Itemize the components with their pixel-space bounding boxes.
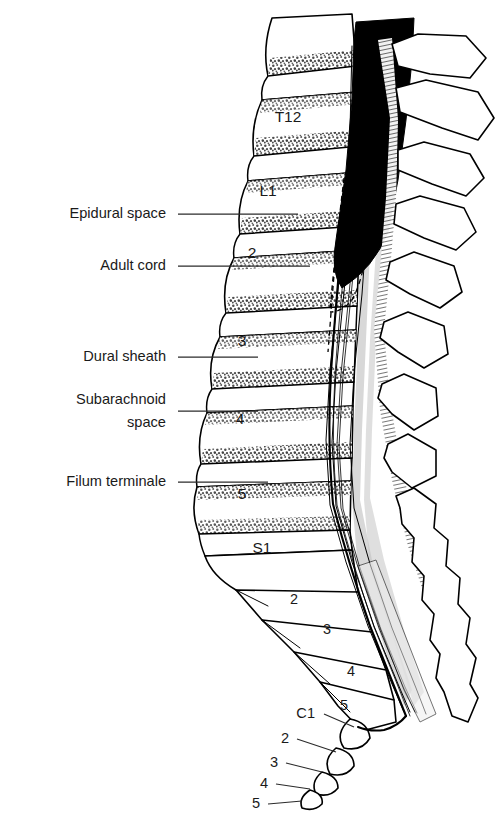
vertebra-label-S1: S1	[253, 539, 272, 556]
coccyx-label-C4: 4	[260, 775, 268, 791]
leader-coccyx-C3	[286, 763, 322, 772]
label-filum-terminale: Filum terminale	[66, 473, 166, 489]
vertebra-body-L5	[194, 481, 351, 534]
callout-labels-group: Epidural space Adult cord Dural sheath S…	[66, 205, 166, 489]
coccyx-group	[301, 719, 370, 809]
label-subarachnoid-space-line1: Subarachnoid	[76, 391, 166, 407]
leader-coccyx-C5	[268, 801, 302, 804]
vertebra-label-L5: 5	[238, 485, 247, 502]
leader-coccyx-C2	[297, 739, 336, 752]
coccyx-label-C1: C1	[296, 705, 315, 721]
vertebra-label-S4: 4	[347, 663, 355, 679]
label-dural-sheath: Dural sheath	[83, 348, 166, 364]
vertebra-label-L3: 3	[238, 332, 247, 349]
vertebra-label-S5: 5	[340, 697, 348, 713]
spine-diagram-canvas: Epidural space Adult cord Dural sheath S…	[0, 0, 500, 822]
vertebra-label-L4: 4	[236, 410, 245, 427]
leader-coccyx-C4	[276, 784, 310, 789]
label-epidural-space: Epidural space	[69, 205, 166, 221]
vertebra-label-L1: L1	[259, 182, 276, 199]
coccyx-label-C5: 5	[252, 795, 260, 811]
coccyx-label-C3: 3	[270, 754, 278, 770]
vertebra-label-L2: 2	[248, 244, 257, 261]
label-adult-cord: Adult cord	[100, 257, 166, 273]
vertebra-label-S3: 3	[323, 621, 331, 637]
spine-anatomy-figure: Epidural space Adult cord Dural sheath S…	[0, 0, 500, 822]
label-subarachnoid-space-line2: space	[127, 414, 166, 430]
vertebral-bodies-group	[194, 14, 361, 556]
vertebra-label-T12: T12	[275, 108, 302, 125]
coccyx-label-C2: 2	[281, 730, 289, 746]
vertebra-body-T12	[253, 92, 360, 156]
vertebra-label-S2: 2	[290, 591, 298, 607]
